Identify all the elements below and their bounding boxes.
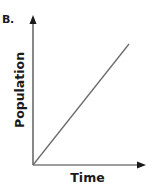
- y-axis-label: Population: [12, 52, 27, 128]
- population-line: [33, 44, 129, 165]
- y-axis-arrow-icon: [30, 15, 37, 24]
- x-axis-arrow-icon: [137, 162, 146, 169]
- x-axis-label: Time: [60, 170, 115, 185]
